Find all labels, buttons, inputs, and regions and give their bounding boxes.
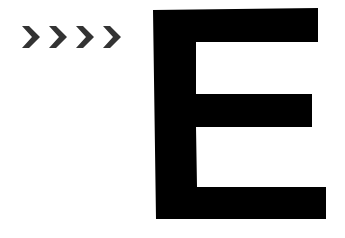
letter-e-graphic	[0, 0, 345, 238]
